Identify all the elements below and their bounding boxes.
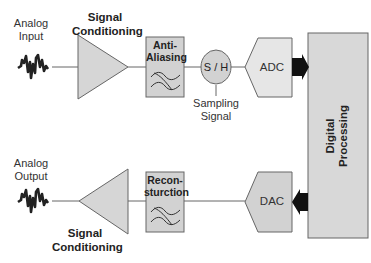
sampling-signal-label: Sampling Signal: [190, 97, 242, 123]
sample-hold-label: S / H: [201, 61, 231, 74]
analog-output-label-line1: Analog: [7, 157, 55, 170]
input-signal-conditioning-line2: Conditioning: [72, 24, 138, 38]
digital-processing-line1: Digital: [324, 96, 337, 176]
signal-chain-diagram: [0, 0, 371, 263]
sampling-signal-line2: Signal: [190, 110, 242, 123]
anti-aliasing-line1: Anti-: [146, 39, 184, 51]
adc-label: ADC: [252, 61, 292, 74]
input-signal-conditioning-line1: Signal: [72, 10, 138, 24]
anti-aliasing-label: Anti- Aliasing: [146, 39, 184, 63]
analog-input-waveform-icon: [18, 55, 48, 78]
sampling-signal-line1: Sampling: [190, 97, 242, 110]
analog-output-waveform-icon: [18, 189, 48, 212]
reconstruction-line1: Recon-: [144, 174, 186, 186]
reconstruction-label: Recon- sturction: [144, 174, 186, 198]
digital-processing-line2: Processing: [337, 96, 350, 176]
arrow-adc-to-processing-icon: [292, 54, 309, 80]
output-signal-conditioning-line1: Signal: [52, 226, 118, 240]
digital-processing-label: Digital Processing: [324, 96, 352, 176]
analog-input-label-line1: Analog: [8, 17, 54, 30]
input-signal-conditioning-amplifier: [78, 35, 128, 99]
anti-aliasing-line2: Aliasing: [146, 51, 184, 63]
dac-label: DAC: [252, 195, 292, 208]
analog-output-label: Analog Output: [7, 157, 55, 183]
output-signal-conditioning-amplifier: [79, 169, 128, 234]
arrow-processing-to-dac-icon: [292, 189, 308, 215]
output-signal-conditioning-line2: Conditioning: [52, 240, 118, 254]
input-signal-conditioning-label: Signal Conditioning: [72, 10, 138, 38]
analog-input-label: Analog Input: [8, 17, 54, 43]
reconstruction-line2: sturction: [144, 186, 186, 198]
output-signal-conditioning-label: Signal Conditioning: [52, 226, 118, 254]
analog-input-label-line2: Input: [8, 30, 54, 43]
analog-output-label-line2: Output: [7, 170, 55, 183]
